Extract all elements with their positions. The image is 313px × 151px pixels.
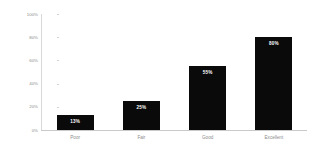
bar-value-label: 80% <box>255 41 292 47</box>
bar-group: 55% <box>189 14 226 130</box>
bar[interactable]: 25% <box>123 101 160 130</box>
plot-area: 13%25%55%80% <box>42 14 307 130</box>
y-axis-tick-label: 60% <box>18 58 38 63</box>
bar[interactable]: 55% <box>189 66 226 130</box>
x-axis-line <box>41 130 307 131</box>
y-axis-tick-label: 40% <box>18 81 38 86</box>
bar-value-label: 55% <box>189 70 226 76</box>
y-axis-tick-label: 100% <box>18 12 38 17</box>
bar-group: 13% <box>57 14 94 130</box>
x-axis-tick-label: Good <box>175 134 241 141</box>
bar[interactable]: 13% <box>57 115 94 130</box>
bar-value-label: 13% <box>57 119 94 125</box>
y-axis-tick-label: 0% <box>18 128 38 133</box>
x-axis-tick-labels: PoorFairGoodExcellent <box>42 134 307 144</box>
bar-group: 80% <box>255 14 292 130</box>
bar-value-label: 25% <box>123 105 160 111</box>
bar[interactable]: 80% <box>255 37 292 130</box>
y-axis-tick-label: 20% <box>18 104 38 109</box>
x-axis-tick-label: Excellent <box>241 134 307 141</box>
bar-group: 25% <box>123 14 160 130</box>
y-axis-tick-labels: 0%20%40%60%80%100% <box>18 14 38 130</box>
bar-chart: Percent of respondents 0%20%40%60%80%100… <box>0 0 313 151</box>
x-axis-tick-label: Poor <box>42 134 108 141</box>
y-axis-tick-label: 80% <box>18 35 38 40</box>
x-axis-tick-label: Fair <box>108 134 174 141</box>
